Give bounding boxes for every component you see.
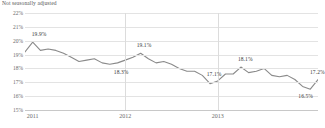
data-point-label: 16.5% xyxy=(298,93,313,99)
data-point-label: 19.1% xyxy=(137,42,152,48)
gridline-20 xyxy=(25,41,318,42)
y-tick-label: 19% xyxy=(13,52,23,58)
y-tick-label: 17% xyxy=(13,79,23,85)
year-divider xyxy=(218,13,219,110)
y-tick-label: 18% xyxy=(13,65,23,71)
x-tick-label: 2011 xyxy=(27,112,39,120)
y-tick-label: 20% xyxy=(13,38,23,44)
gridline-21 xyxy=(25,27,318,28)
x-tick-label: 2013 xyxy=(212,112,224,120)
y-axis-labels: 15%16%17%18%19%20%21%22% xyxy=(0,13,25,110)
y-tick-label: 15% xyxy=(13,107,23,113)
data-point-label: 18.3% xyxy=(114,69,129,75)
gridline-17 xyxy=(25,82,318,83)
data-point-label: 18.1% xyxy=(238,56,253,62)
x-axis-labels: 201120122013 xyxy=(25,112,318,126)
x-tick-label: 2012 xyxy=(119,112,131,120)
gridline-19 xyxy=(25,55,318,56)
gridline-18 xyxy=(25,68,318,69)
year-divider xyxy=(125,13,126,110)
chart-subtitle: Not seasonally adjusted xyxy=(2,0,57,7)
y-tick-label: 21% xyxy=(13,24,23,30)
data-point-label: 17.2% xyxy=(310,69,325,75)
y-tick-label: 22% xyxy=(13,10,23,16)
plot-area: 19.9%18.3%19.1%17.1%18.1%16.5%17.2% xyxy=(25,13,318,110)
data-point-label: 19.9% xyxy=(32,31,47,37)
y-tick-label: 16% xyxy=(13,93,23,99)
data-point-label: 17.1% xyxy=(207,71,222,77)
gridline-22 xyxy=(25,13,318,14)
gridline-16 xyxy=(25,96,318,97)
gridline-15 xyxy=(25,110,318,111)
